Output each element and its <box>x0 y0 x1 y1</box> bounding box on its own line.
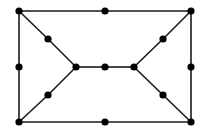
node-dul <box>44 35 51 42</box>
edge-bl-dll <box>19 95 48 122</box>
node-dll <box>44 91 51 98</box>
edge-tl-dul <box>19 11 48 39</box>
node-bl <box>15 118 22 125</box>
node-tr <box>187 7 194 14</box>
edge-dul-cl <box>48 39 76 67</box>
node-dlr <box>159 91 166 98</box>
node-bm <box>101 118 108 125</box>
node-cl <box>72 63 79 70</box>
node-tm <box>101 7 108 14</box>
graph-diagram <box>0 0 209 138</box>
edge-dll-cl <box>48 67 76 95</box>
node-tl <box>15 7 22 14</box>
node-br <box>187 118 194 125</box>
node-cr <box>130 63 137 70</box>
edge-dur-cr <box>134 39 163 67</box>
node-mr <box>187 63 194 70</box>
node-dur <box>159 35 166 42</box>
node-cm <box>101 63 108 70</box>
edge-br-dlr <box>163 95 191 122</box>
edge-tr-dur <box>163 11 191 39</box>
graph-nodes <box>15 7 194 125</box>
node-ml <box>15 63 22 70</box>
edge-dlr-cr <box>134 67 163 95</box>
